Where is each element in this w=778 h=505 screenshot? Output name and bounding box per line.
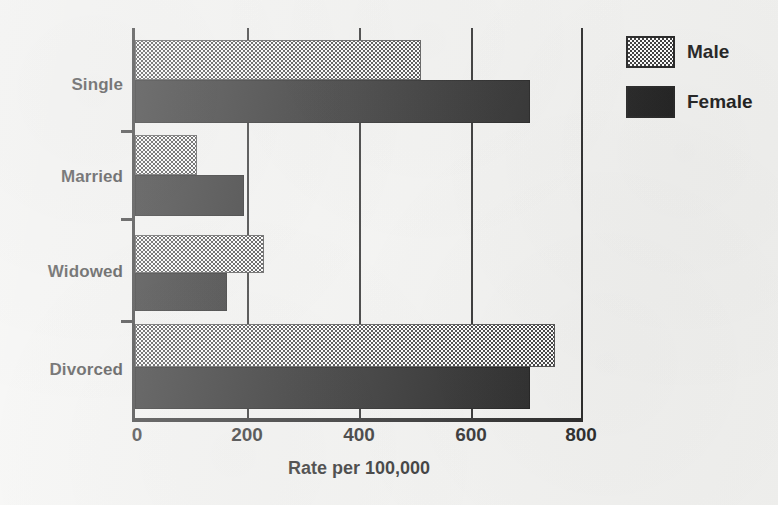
bar-single-male bbox=[135, 40, 421, 80]
bar-chart-figure: Single Married Widowed Divorced 0 200 bbox=[0, 0, 778, 505]
gridline-800 bbox=[581, 28, 583, 418]
bar-widowed-male bbox=[135, 235, 264, 273]
category-label-single: Single bbox=[71, 75, 123, 95]
x-tick-label-400: 400 bbox=[343, 424, 375, 446]
category-label-divorced: Divorced bbox=[49, 360, 123, 380]
x-tick-label-600: 600 bbox=[455, 424, 487, 446]
category-label-married: Married bbox=[61, 167, 123, 187]
x-tick-label-200: 200 bbox=[231, 424, 263, 446]
bar-divorced-female bbox=[135, 367, 530, 409]
legend-entry-male: Male bbox=[626, 36, 729, 68]
bar-married-female bbox=[135, 175, 244, 216]
legend-label-male: Male bbox=[687, 41, 729, 63]
x-axis-tick-labels: 0 200 400 600 800 bbox=[0, 424, 778, 450]
x-tick-label-800: 800 bbox=[565, 424, 597, 446]
y-axis-tick-1 bbox=[121, 130, 133, 133]
chart-legend: Male Female bbox=[626, 36, 776, 121]
legend-label-female: Female bbox=[687, 91, 752, 113]
legend-swatch-male-icon bbox=[626, 36, 675, 68]
bar-single-female bbox=[135, 80, 530, 123]
legend-entry-female: Female bbox=[626, 86, 752, 118]
bar-widowed-female bbox=[135, 273, 227, 311]
category-label-widowed: Widowed bbox=[48, 262, 123, 282]
bar-divorced-male bbox=[135, 324, 555, 367]
plot-area bbox=[135, 28, 583, 418]
y-axis-tick-3 bbox=[121, 320, 133, 323]
bar-married-male bbox=[135, 135, 197, 175]
x-axis-line bbox=[132, 418, 583, 422]
x-tick-label-0: 0 bbox=[132, 424, 143, 446]
y-axis-tick-2 bbox=[121, 218, 133, 221]
x-axis-title: Rate per 100,000 bbox=[135, 458, 583, 479]
legend-swatch-female-icon bbox=[626, 86, 675, 118]
